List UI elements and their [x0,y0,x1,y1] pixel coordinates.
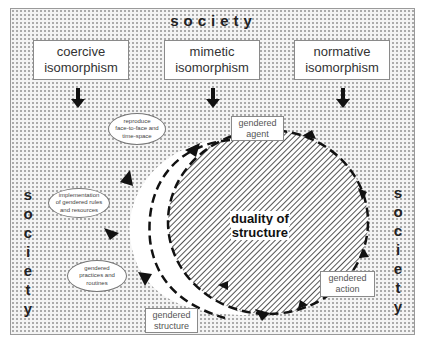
society-label-right: society [391,183,405,316]
normative-isomorphism-box: normativeisomorphism [294,40,390,80]
society-label-left: society [21,185,35,318]
reproduce-oval: reproduceface-to-face andtime-space [108,113,166,145]
coercive-isomorphism-box: coerciveisomorphism [33,40,129,80]
gendered-agent-box: genderedagent [231,116,284,141]
gendered-action-box: genderedaction [320,271,375,297]
mimetic-isomorphism-box: mimeticisomorphism [164,40,260,80]
implementation-oval: implementationof gendered rulesand resou… [48,188,110,218]
practices-oval: genderedpractices androutines [67,260,127,292]
duality-of-structure-label: duality of structure [230,212,290,240]
down-arrows [71,88,350,108]
gendered-structure-box: genderedstructure [145,308,198,333]
